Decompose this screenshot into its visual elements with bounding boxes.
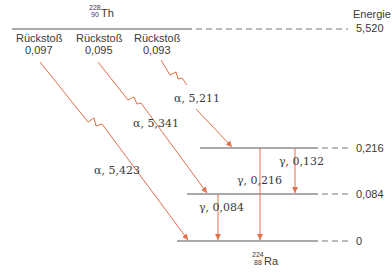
level-value-216: 0,216 — [356, 142, 384, 154]
svg-text:88: 88 — [254, 259, 262, 266]
svg-text:224: 224 — [252, 251, 264, 258]
svg-text:γ, 0,084: γ, 0,084 — [199, 201, 244, 214]
svg-text:α, 5,211: α, 5,211 — [174, 92, 220, 105]
daughter-nuclide-label: 224 88 Ra — [252, 251, 279, 267]
svg-text:α, 5,341: α, 5,341 — [133, 117, 179, 130]
parent-nuclide-label: 228 90 Th — [89, 4, 114, 19]
svg-text:90: 90 — [91, 11, 99, 18]
alpha-arrow-5211: α, 5,211 — [161, 60, 232, 147]
svg-text:Ra: Ra — [264, 255, 279, 267]
svg-text:γ, 0,132: γ, 0,132 — [279, 155, 324, 168]
recoil-label-1: Rückstoß 0,097 — [16, 32, 63, 56]
recoil-label-3: Rückstoß 0,093 — [134, 32, 181, 56]
svg-text:Rückstoß: Rückstoß — [16, 32, 63, 44]
alpha-arrow-5423: α, 5,423 — [40, 62, 188, 240]
gamma-arrow-132: γ, 0,132 — [279, 148, 324, 193]
svg-text:0,097: 0,097 — [25, 44, 53, 56]
level-value-ground: 0 — [356, 235, 362, 247]
svg-text:α, 5,423: α, 5,423 — [94, 164, 140, 177]
svg-text:228: 228 — [89, 4, 101, 11]
gamma-arrow-084: γ, 0,084 — [199, 194, 244, 240]
decay-scheme-diagram: 228 90 Th Energie 5,520 Rückstoß 0,097 R… — [0, 0, 392, 274]
svg-text:Rückstoß: Rückstoß — [76, 32, 123, 44]
svg-text:0,093: 0,093 — [143, 44, 171, 56]
level-value-parent: 5,520 — [356, 22, 384, 34]
svg-text:γ, 0,216: γ, 0,216 — [237, 174, 282, 187]
recoil-label-2: Rückstoß 0,095 — [76, 32, 123, 56]
svg-text:0,095: 0,095 — [85, 44, 113, 56]
level-value-084: 0,084 — [356, 188, 384, 200]
svg-text:Rückstoß: Rückstoß — [134, 32, 181, 44]
svg-text:Th: Th — [101, 7, 114, 19]
energy-axis-label: Energie — [353, 8, 391, 20]
